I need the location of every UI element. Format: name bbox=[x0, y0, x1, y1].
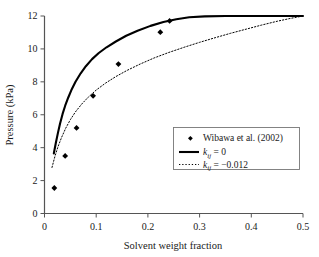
x-tick-label: 0 bbox=[42, 221, 47, 232]
y-tick-label: 0 bbox=[33, 208, 38, 219]
y-tick-label: 2 bbox=[33, 175, 38, 186]
y-tick-label: 8 bbox=[33, 76, 38, 87]
x-tick-label: 0.4 bbox=[245, 221, 258, 232]
x-tick-label: 0.3 bbox=[193, 221, 206, 232]
y-tick-label: 4 bbox=[33, 142, 38, 153]
legend-label-wibawa: Wibawa et al. (2002) bbox=[203, 133, 283, 144]
legend-entry-wibawa: Wibawa et al. (2002) bbox=[188, 133, 283, 144]
y-tick-label: 12 bbox=[28, 10, 38, 21]
y-axis-title: Pressure (kPa) bbox=[4, 84, 16, 145]
x-tick-label: 0.5 bbox=[297, 221, 310, 232]
x-tick-label: 0.2 bbox=[142, 221, 155, 232]
y-tick-label: 10 bbox=[28, 43, 38, 54]
figure-container: 00.10.20.30.40.5 024681012 Solvent weigh… bbox=[0, 0, 319, 257]
legend-kij-minus-value: = −0.012 bbox=[211, 160, 248, 170]
x-tick-label: 0.1 bbox=[90, 221, 103, 232]
legend: Wibawa et al. (2002) kij = 0 kij = −0.01… bbox=[174, 128, 300, 173]
y-tick-label: 6 bbox=[33, 109, 38, 120]
x-axis-title: Solvent weight fraction bbox=[124, 240, 223, 251]
pressure-vs-solvent-weight-fraction-chart: 00.10.20.30.40.5 024681012 Solvent weigh… bbox=[0, 0, 319, 257]
legend-kij-0-value: = 0 bbox=[211, 147, 226, 157]
